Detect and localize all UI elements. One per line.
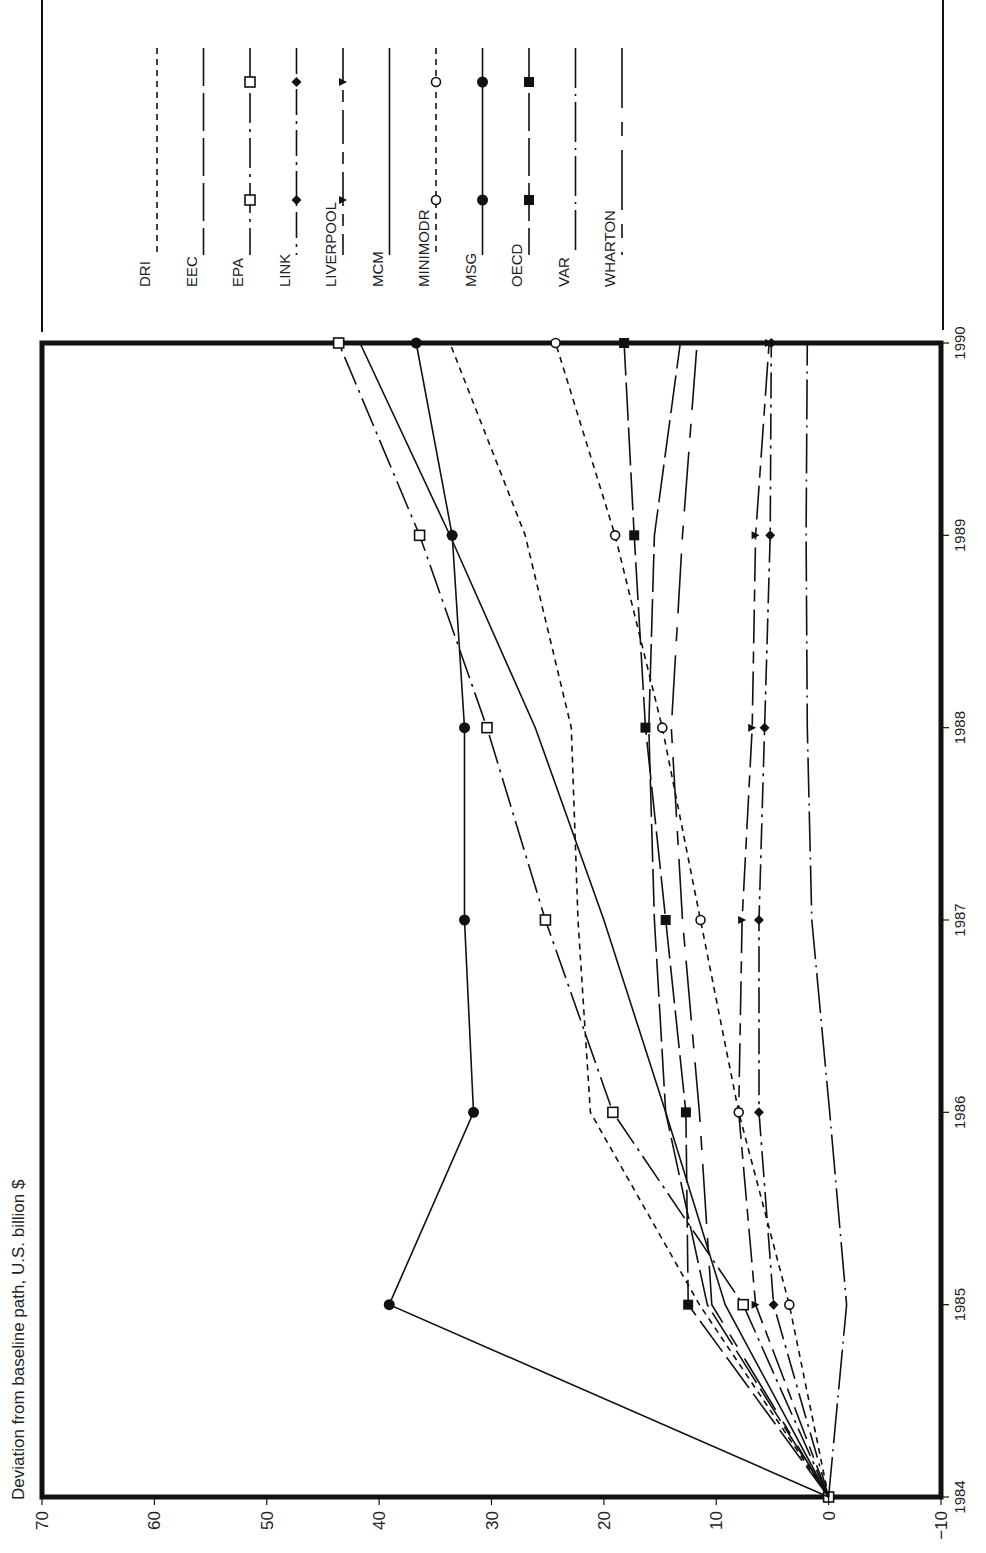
legend-item-msg: MSG [462, 48, 489, 287]
year-tick-label: 1990 [951, 326, 968, 359]
legend-item-minimodr: MINIMODR [415, 48, 441, 287]
open-circle-marker [734, 1108, 743, 1117]
value-tick-label: 0 [820, 1511, 839, 1520]
value-tick-label: 30 [483, 1511, 502, 1530]
legend-item-var: VAR [555, 48, 576, 287]
series-link [754, 338, 829, 1497]
legend-item-dri: DRI [136, 48, 157, 287]
filled-circle-marker [468, 1107, 479, 1118]
filled-diamond-marker [765, 530, 775, 540]
open-square-marker [415, 530, 425, 540]
filled-square-marker [524, 77, 534, 87]
series-liverpool [735, 339, 829, 1497]
series-oecd [619, 338, 828, 1497]
filled-square-marker [629, 530, 639, 540]
filled-circle-marker [477, 77, 488, 88]
series-dri [450, 343, 829, 1497]
filled-square-marker [681, 1107, 691, 1117]
filled-diamond-marker [754, 1107, 764, 1117]
open-square-marker [334, 338, 344, 348]
open-square-marker [540, 915, 550, 925]
open-square-marker [245, 77, 255, 87]
open-square-marker [245, 195, 255, 205]
filled-square-marker [640, 723, 650, 733]
year-tick-label: 1984 [951, 1480, 968, 1513]
open-circle-marker [658, 723, 667, 732]
year-tick-label: 1988 [951, 711, 968, 744]
legend-item-oecd: OECD [508, 48, 534, 287]
filled-diamond-marker [292, 195, 302, 205]
filled-circle-marker [459, 722, 470, 733]
year-tick-label: 1985 [951, 1288, 968, 1321]
filled-circle-marker [477, 195, 488, 206]
filled-square-marker [661, 915, 671, 925]
legend-label: MSG [462, 253, 479, 287]
legend-item-eec: EEC [183, 48, 204, 287]
value-tick-label: 60 [145, 1511, 164, 1530]
value-axis: 706050403020100−10 [33, 1497, 951, 1540]
legend-label: MCM [369, 251, 386, 287]
filled-circle-marker [459, 915, 470, 926]
legend-label: OECD [508, 243, 525, 287]
filled-diamond-marker [769, 1300, 779, 1310]
year-axis: 1984198519861987198819891990 [941, 326, 968, 1513]
legend-item-link: LINK [276, 48, 302, 287]
filled-circle-marker [447, 530, 458, 541]
open-circle-marker [432, 196, 441, 205]
legend-item-liverpool: LIVERPOOL [322, 48, 347, 287]
year-tick-label: 1986 [951, 1096, 968, 1129]
legend-label: LIVERPOOL [322, 202, 339, 287]
value-tick-label: 50 [258, 1511, 277, 1530]
value-tick-label: 10 [707, 1511, 726, 1530]
legend-label: WHARTON [601, 210, 618, 287]
value-tick-label: 20 [595, 1511, 614, 1530]
value-tick-label: 70 [33, 1511, 52, 1530]
legend-item-mcm: MCM [369, 48, 390, 287]
legend-label: EPA [229, 258, 246, 287]
series-var [806, 343, 847, 1497]
legend: DRIEECEPALINKLIVERPOOLMCMMINIMODRMSGOECD… [42, 0, 943, 332]
legend-label: EEC [183, 256, 200, 287]
value-axis-label: Deviation from baseline path, U.S. billi… [9, 1179, 28, 1500]
legend-item-epa: EPA [229, 48, 255, 287]
open-circle-marker [432, 78, 441, 87]
open-circle-marker [785, 1300, 794, 1309]
legend-label: VAR [555, 257, 572, 287]
open-square-marker [482, 723, 492, 733]
plot-area [42, 338, 941, 1503]
series-minimodr [551, 339, 829, 1498]
open-circle-marker [696, 916, 705, 925]
open-square-marker [608, 1107, 618, 1117]
value-tick-label: −10 [932, 1511, 951, 1540]
filled-diamond-marker [292, 77, 302, 87]
filled-square-marker [683, 1300, 693, 1310]
series-wharton [671, 343, 828, 1497]
year-tick-label: 1987 [951, 903, 968, 936]
line-chart: DRIEECEPALINKLIVERPOOLMCMMINIMODRMSGOECD… [0, 0, 986, 1553]
filled-circle-marker [411, 338, 422, 349]
legend-label: MINIMODR [415, 209, 432, 287]
open-circle-marker [551, 339, 560, 348]
open-square-marker [738, 1300, 748, 1310]
legend-label: DRI [136, 261, 153, 287]
year-tick-label: 1989 [951, 519, 968, 552]
legend-item-wharton: WHARTON [601, 48, 622, 287]
value-tick-label: 40 [370, 1511, 389, 1530]
filled-square-marker [524, 195, 534, 205]
legend-label: LINK [276, 254, 293, 287]
filled-square-marker [619, 338, 629, 348]
filled-diamond-marker [760, 723, 770, 733]
filled-diamond-marker [754, 915, 764, 925]
open-circle-marker [611, 531, 620, 540]
filled-circle-marker [384, 1299, 395, 1310]
